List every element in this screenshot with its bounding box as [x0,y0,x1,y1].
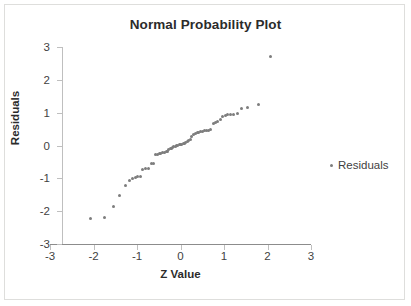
chart-title: Normal Probability Plot [0,17,411,32]
chart-container: Normal Probability Plot 3210-1-2-3 -3-2-… [0,0,411,306]
x-axis-tick-label: 0 [166,250,196,262]
data-point [240,107,243,110]
data-point [89,217,92,220]
data-point [257,103,260,106]
data-point [103,216,106,219]
data-point [118,194,121,197]
y-axis-tick-label: -2 [26,205,50,217]
legend-item-label: Residuals [338,159,389,171]
y-axis-tick-label: 2 [26,74,50,86]
y-axis-tick-label: -1 [26,172,50,184]
data-point [147,167,150,170]
x-axis-tick-label: 3 [296,250,326,262]
y-axis-title: Residuals [9,68,21,168]
y-axis-tick-label: 0 [26,140,50,152]
y-axis-tick-label: 1 [26,107,50,119]
data-point [124,184,127,187]
y-axis-tick [57,244,62,245]
x-axis-tick-label: -1 [122,250,152,262]
x-axis-tick-label: -3 [35,250,65,262]
data-point [236,112,239,115]
data-point [112,205,115,208]
y-axis-tick-label: 3 [26,41,50,53]
legend-marker-icon [330,164,333,167]
x-axis-title: Z Value [50,268,311,280]
x-axis-tick-label: 1 [209,250,239,262]
x-axis-tick-label: 2 [253,250,283,262]
data-point [139,175,142,178]
x-axis-tick-label: -2 [79,250,109,262]
chart-legend: Residuals [330,159,389,171]
data-point [232,113,235,116]
data-point [189,138,192,141]
y-axis-tick-label: -3 [26,238,50,250]
data-point [246,106,249,109]
